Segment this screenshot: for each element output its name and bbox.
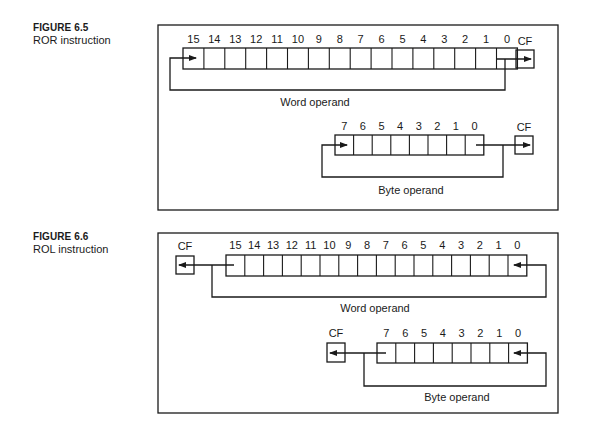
bit-index-label: 1 (483, 33, 489, 45)
rotate-feedback-line (322, 145, 503, 177)
carry-flag-label: CF (517, 121, 532, 133)
figure-6-5-ror-diagram: 1514131211109876543210 CF Word operand 7… (158, 25, 558, 210)
word-operand-label: Word operand (340, 302, 410, 314)
bit-index-label: 0 (471, 120, 477, 132)
carry-flag-label: CF (518, 35, 533, 47)
bit-index-label: 6 (402, 239, 408, 251)
bit-index-label: 7 (341, 120, 347, 132)
rotate-feedback-line (364, 353, 546, 386)
bit-index-label: 13 (229, 33, 241, 45)
bit-index-label: 4 (420, 33, 426, 45)
bit-index-label: 8 (337, 33, 343, 45)
bit-index-label: 15 (229, 239, 241, 251)
figure-6-6-rol-diagram: CF 1514131211109876543210 Word operand C… (158, 233, 558, 413)
bit-index-label: 4 (397, 120, 403, 132)
bit-index-label: 0 (504, 33, 510, 45)
bit-index-label: 10 (292, 33, 304, 45)
rotate-feedback-line (212, 265, 546, 297)
bit-index-label: 7 (383, 327, 389, 339)
word-register: 1514131211109876543210 (226, 239, 527, 276)
bit-index-label: 7 (358, 33, 364, 45)
bit-index-label: 15 (187, 33, 199, 45)
bit-index-label: 11 (305, 239, 316, 251)
figure-frame (158, 25, 558, 210)
bit-index-label: 13 (267, 239, 279, 251)
bit-index-label: 3 (459, 327, 465, 339)
bit-index-label: 12 (250, 33, 262, 45)
bit-index-label: 8 (364, 239, 370, 251)
bit-index-label: 4 (440, 327, 446, 339)
bit-index-label: 12 (286, 239, 298, 251)
bit-index-label: 3 (416, 120, 422, 132)
bit-index-label: 5 (378, 120, 384, 132)
bit-index-label: 6 (360, 120, 366, 132)
bit-index-label: 11 (271, 33, 282, 45)
bit-index-label: 6 (378, 33, 384, 45)
bit-index-label: 2 (462, 33, 468, 45)
rotate-diagrams: 1514131211109876543210 CF Word operand 7… (0, 0, 596, 436)
bit-index-label: 0 (515, 327, 521, 339)
byte-operand-label: Byte operand (424, 391, 489, 403)
bit-index-label: 10 (323, 239, 335, 251)
bit-index-label: 5 (399, 33, 405, 45)
bit-index-label: 9 (316, 33, 322, 45)
bit-index-label: 14 (248, 239, 260, 251)
bit-index-label: 2 (477, 239, 483, 251)
word-register: 1514131211109876543210 (183, 33, 517, 69)
carry-flag-label: CF (329, 327, 344, 339)
bit-index-label: 6 (402, 327, 408, 339)
bit-index-label: 4 (439, 239, 445, 251)
bit-index-label: 3 (441, 33, 447, 45)
bit-index-label: 0 (514, 239, 520, 251)
bit-index-label: 1 (453, 120, 459, 132)
bit-index-label: 5 (420, 239, 426, 251)
byte-register: 76543210 (335, 120, 484, 155)
bit-index-label: 7 (383, 239, 389, 251)
bit-index-label: 14 (208, 33, 220, 45)
word-operand-label: Word operand (280, 96, 350, 108)
bit-index-label: 3 (458, 239, 464, 251)
byte-register: 76543210 (377, 327, 527, 363)
bit-index-label: 9 (345, 239, 351, 251)
bit-index-label: 1 (496, 327, 502, 339)
bit-index-label: 2 (434, 120, 440, 132)
bit-index-label: 2 (477, 327, 483, 339)
carry-flag-label: CF (178, 240, 193, 252)
byte-operand-label: Byte operand (378, 184, 443, 196)
bit-index-label: 5 (421, 327, 427, 339)
bit-index-label: 1 (496, 239, 502, 251)
